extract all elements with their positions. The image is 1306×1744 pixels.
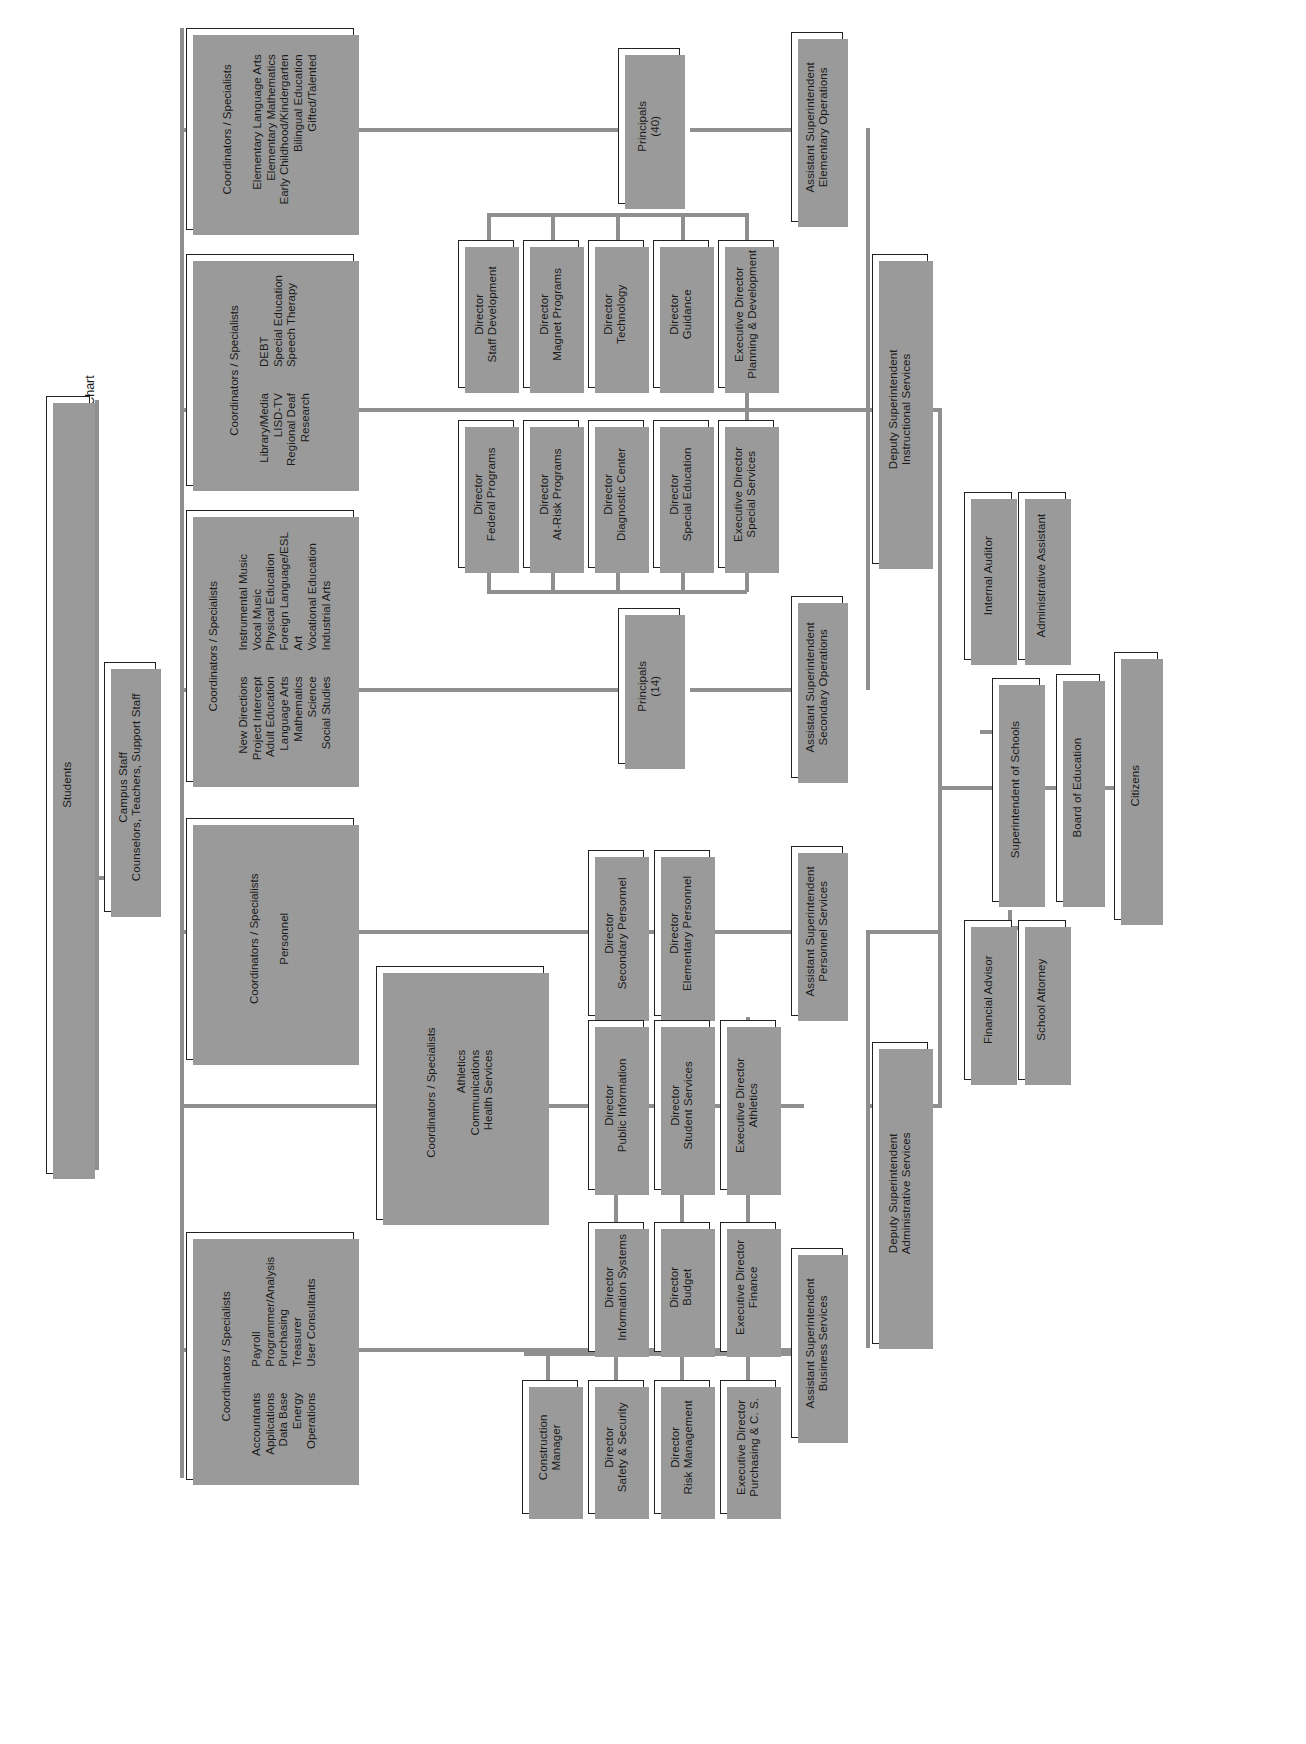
list-item: Gifted/Talented bbox=[306, 54, 320, 204]
box-asst-supt-business: Assistant Superintendent Business Servic… bbox=[791, 1248, 843, 1438]
box-exec-director-special-services: Executive Director Special Services bbox=[718, 420, 774, 568]
dir-budget-text: Director Budget bbox=[655, 1223, 709, 1351]
asst-supt-personnel-text: Assistant Superintendent Personnel Servi… bbox=[792, 847, 842, 1015]
dir-staff-dev-text: Director Staff Development bbox=[459, 241, 513, 387]
principals-40-text: Principals (40) bbox=[619, 49, 679, 203]
exec-dir-purchasing-text: Executive Director Purchasing & C. S. bbox=[721, 1381, 775, 1513]
asst-supt-sec-line1: Assistant Superintendent bbox=[804, 622, 816, 752]
connector bbox=[551, 213, 555, 241]
list-item: Science bbox=[306, 676, 320, 760]
dir-staff-dev-line2: Staff Development bbox=[486, 266, 498, 362]
box-students-text: Students bbox=[47, 397, 89, 1173]
dir-technology-line1: Director bbox=[603, 293, 615, 334]
coordinators-special-content: Coordinators / Specialists Library/Media… bbox=[187, 255, 353, 485]
coord-business-list-right: Payroll Programmer/Analysis Purchasing T… bbox=[250, 1256, 319, 1366]
principals-14-count: (14) bbox=[649, 676, 661, 697]
list-item: Library/Media bbox=[257, 393, 271, 466]
box-director-secondary-personnel: Director Secondary Personnel bbox=[588, 850, 644, 1016]
connector bbox=[95, 400, 99, 1170]
dir-safety-line2: Safety & Security bbox=[616, 1402, 628, 1492]
list-item: Elementary Mathematics bbox=[264, 54, 278, 204]
box-director-information-systems: Director Information Systems bbox=[588, 1222, 644, 1352]
list-item: Energy bbox=[292, 1392, 306, 1455]
dir-info-systems-line1: Director bbox=[603, 1266, 615, 1307]
list-item: DEBT bbox=[257, 275, 271, 367]
exec-dir-purchasing-line2: Purchasing & C. S. bbox=[748, 1398, 760, 1497]
dir-guidance-line2: Guidance bbox=[681, 289, 693, 339]
dir-sec-personnel-line1: Director bbox=[603, 912, 615, 953]
coord-special-list-right: DEBT Special Education Speech Therapy bbox=[257, 275, 298, 367]
asst-supt-sec-line2: Secondary Operations bbox=[817, 629, 829, 745]
connector bbox=[690, 128, 800, 132]
box-asst-supt-personnel: Assistant Superintendent Personnel Servi… bbox=[791, 846, 843, 1016]
dir-staff-dev-line1: Director bbox=[473, 293, 485, 334]
box-deputy-supt-instructional: Deputy Superintendent Instructional Serv… bbox=[872, 254, 928, 564]
coordinators-elementary-content: Coordinators / Specialists Elementary La… bbox=[187, 29, 353, 229]
asst-supt-personnel-line2: Personnel Services bbox=[817, 881, 829, 982]
list-item: Athletics bbox=[454, 1050, 468, 1136]
connector bbox=[681, 213, 685, 241]
dir-diagnostic-text: Director Diagnostic Center bbox=[589, 421, 643, 567]
dir-diagnostic-line2: Diagnostic Center bbox=[616, 447, 628, 540]
asst-supt-business-line2: Business Services bbox=[817, 1295, 829, 1391]
coord-secondary-list-right: Instrumental Music Vocal Music Physical … bbox=[237, 532, 334, 650]
dir-student-svcs-text: Director Student Services bbox=[655, 1021, 709, 1189]
box-exec-director-athletics: Executive Director Athletics bbox=[720, 1020, 776, 1190]
campus-staff-line1: Campus Staff bbox=[117, 752, 129, 823]
box-director-student-services: Director Student Services bbox=[654, 1020, 710, 1190]
financial-advisor-text: Financial Advisor bbox=[965, 921, 1011, 1079]
exec-dir-athletics-line2: Athletics bbox=[748, 1083, 760, 1127]
connector bbox=[938, 408, 942, 788]
box-director-diagnostic-center: Director Diagnostic Center bbox=[588, 420, 644, 568]
board-of-education-text: Board of Education bbox=[1057, 675, 1099, 901]
box-director-elementary-personnel: Director Elementary Personnel bbox=[654, 850, 710, 1016]
list-item: Applications bbox=[264, 1392, 278, 1455]
dir-diagnostic-line1: Director bbox=[603, 473, 615, 514]
coord-special-header: Coordinators / Specialists bbox=[228, 275, 242, 466]
dir-risk-line1: Director bbox=[669, 1426, 681, 1467]
box-campus-staff: Campus Staff Counselors, Teachers, Suppo… bbox=[104, 662, 156, 912]
list-item: Health Services bbox=[482, 1050, 496, 1136]
list-item: User Consultants bbox=[306, 1256, 320, 1366]
box-coordinators-special: Coordinators / Specialists Library/Media… bbox=[186, 254, 354, 486]
list-item: Research bbox=[299, 393, 313, 466]
coord-special-list-left: Library/Media LISD-TV Regional Deaf Rese… bbox=[257, 393, 312, 466]
box-director-magnet-programs: Director Magnet Programs bbox=[523, 240, 579, 388]
deputy-instructional-line1: Deputy Superintendent bbox=[887, 349, 899, 469]
box-construction-manager: Construction Manager bbox=[522, 1380, 578, 1514]
dir-magnet-text: Director Magnet Programs bbox=[524, 241, 578, 387]
dir-guidance-text: Director Guidance bbox=[654, 241, 708, 387]
list-item: Operations bbox=[306, 1392, 320, 1455]
dir-atrisk-text: Director At-Risk Programs bbox=[524, 421, 578, 567]
list-item: Speech Therapy bbox=[285, 275, 299, 367]
asst-supt-elem-line2: Elementary Operations bbox=[817, 67, 829, 187]
dir-federal-line1: Director bbox=[473, 473, 485, 514]
exec-dir-purchasing-line1: Executive Director bbox=[735, 1399, 747, 1494]
box-director-at-risk-programs: Director At-Risk Programs bbox=[523, 420, 579, 568]
list-item: Adult Education bbox=[264, 676, 278, 760]
coordinators-athletics-content: Coordinators / Specialists Athletics Com… bbox=[377, 967, 543, 1219]
deputy-instructional-text: Deputy Superintendent Instructional Serv… bbox=[873, 255, 927, 563]
list-item: Mathematics bbox=[292, 676, 306, 760]
superintendent-text: Superintendent of Schools bbox=[993, 679, 1039, 901]
connector bbox=[616, 213, 620, 241]
list-item: New Directions bbox=[237, 676, 251, 760]
list-item: Language Arts bbox=[278, 676, 292, 760]
list-item: Instrumental Music bbox=[237, 532, 251, 650]
construction-mgr-line1: Construction bbox=[537, 1414, 549, 1480]
dir-public-info-line1: Director bbox=[603, 1084, 615, 1125]
asst-supt-sec-text: Assistant Superintendent Secondary Opera… bbox=[792, 597, 842, 777]
dir-public-info-line2: Public Information bbox=[616, 1058, 628, 1152]
asst-supt-business-line1: Assistant Superintendent bbox=[804, 1278, 816, 1408]
connector bbox=[866, 930, 942, 934]
box-director-guidance: Director Guidance bbox=[653, 240, 709, 388]
list-item: Bilingual Education bbox=[292, 54, 306, 204]
box-director-special-education: Director Special Education bbox=[653, 420, 709, 568]
list-item: Programmer/Analysis bbox=[264, 1256, 278, 1366]
dir-sec-personnel-line2: Secondary Personnel bbox=[616, 877, 628, 989]
box-campus-staff-text: Campus Staff Counselors, Teachers, Suppo… bbox=[105, 663, 155, 911]
list-item: Communications bbox=[468, 1050, 482, 1136]
list-item: Industrial Arts bbox=[319, 532, 333, 650]
box-internal-auditor: Internal Auditor bbox=[964, 492, 1012, 660]
list-item: Purchasing bbox=[278, 1256, 292, 1366]
